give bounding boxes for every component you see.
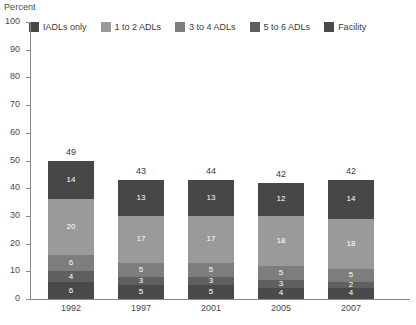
x-axis-category-label: 2005 — [258, 303, 304, 313]
bar-segment-value: 6 — [69, 287, 73, 295]
x-axis-labels: 19921997200120052007 — [30, 303, 410, 317]
bar-segment[interactable]: 20 — [48, 199, 94, 254]
bar-segment[interactable]: 5 — [118, 263, 164, 277]
bar-segment-value: 14 — [67, 176, 76, 184]
bar-segment-value: 5 — [139, 288, 143, 296]
bar-segment[interactable]: 14 — [328, 180, 374, 219]
bar-segment-value: 14 — [347, 195, 356, 203]
bars-layer: 6462014495351713435351713444351812424251… — [30, 22, 410, 300]
plot-area: 1009080706050403020100 64620144953517134… — [30, 22, 410, 300]
bar-segment[interactable]: 18 — [258, 216, 304, 266]
bar-stack: 425181442 — [328, 180, 374, 299]
y-axis-title: Percent — [4, 2, 36, 12]
bar-stack: 535171344 — [188, 180, 234, 299]
y-axis-tick-label: 10 — [0, 265, 20, 276]
bar-segment-value: 17 — [137, 235, 146, 243]
bar-segment[interactable]: 14 — [48, 161, 94, 200]
bar-segment[interactable]: 5 — [328, 269, 374, 283]
bar-segment-value: 4 — [349, 289, 353, 297]
x-axis-category-label: 1992 — [48, 303, 94, 313]
bar-segment-value: 4 — [279, 289, 283, 297]
y-axis-tick-label: 80 — [0, 71, 20, 82]
bar-segment[interactable]: 5 — [258, 266, 304, 280]
bar-segment[interactable]: 4 — [258, 288, 304, 299]
bar-segment[interactable]: 12 — [258, 183, 304, 216]
bar-segment[interactable]: 3 — [188, 277, 234, 285]
bar-segment-value: 5 — [139, 266, 143, 274]
bar-segment-value: 5 — [349, 271, 353, 279]
bar-total-label: 42 — [328, 166, 374, 176]
bar-segment-value: 3 — [139, 277, 143, 285]
bar-segment-value: 4 — [69, 273, 73, 281]
y-axis-tick-label: 30 — [0, 210, 20, 221]
bar-segment[interactable]: 5 — [118, 285, 164, 299]
y-axis-tick-label: 40 — [0, 182, 20, 193]
bar-segment[interactable]: 6 — [48, 255, 94, 272]
y-axis-tick-label: 0 — [0, 293, 20, 304]
bar-segment[interactable]: 17 — [188, 216, 234, 263]
bar-segment-value: 6 — [69, 259, 73, 267]
bar-segment-value: 13 — [207, 194, 216, 202]
bar-group[interactable]: 646201449 — [48, 161, 94, 299]
bar-segment[interactable]: 5 — [188, 285, 234, 299]
bar-segment[interactable]: 3 — [118, 277, 164, 285]
x-axis-category-label: 1997 — [118, 303, 164, 313]
bar-segment[interactable]: 3 — [258, 280, 304, 288]
bar-segment[interactable]: 17 — [118, 216, 164, 263]
bar-segment-value: 12 — [277, 195, 286, 203]
bar-segment[interactable]: 5 — [188, 263, 234, 277]
bar-segment[interactable]: 2 — [328, 282, 374, 288]
bar-group[interactable]: 435181242 — [258, 183, 304, 299]
x-axis-category-label: 2007 — [328, 303, 374, 313]
bar-segment-value: 5 — [279, 269, 283, 277]
y-axis-tick-label: 90 — [0, 44, 20, 55]
bar-segment[interactable]: 13 — [188, 180, 234, 216]
bar-stack: 646201449 — [48, 161, 94, 299]
bar-segment-value: 3 — [209, 277, 213, 285]
bar-segment[interactable]: 4 — [48, 271, 94, 282]
bar-segment-value: 13 — [137, 194, 146, 202]
bar-segment[interactable]: 6 — [48, 282, 94, 299]
bar-segment-value: 18 — [277, 237, 286, 245]
bar-segment-value: 5 — [209, 288, 213, 296]
bar-total-label: 43 — [118, 166, 164, 176]
y-axis-tick-label: 100 — [0, 16, 20, 27]
bar-segment[interactable]: 13 — [118, 180, 164, 216]
bar-segment-value: 3 — [279, 280, 283, 288]
x-axis-category-label: 2001 — [188, 303, 234, 313]
bar-segment[interactable]: 18 — [328, 219, 374, 269]
bar-stack: 535171343 — [118, 180, 164, 299]
bar-total-label: 44 — [188, 166, 234, 176]
stacked-bar-chart: Percent IADLs only1 to 2 ADLs3 to 4 ADLs… — [0, 0, 416, 325]
bar-stack: 435181242 — [258, 183, 304, 299]
bar-group[interactable]: 425181442 — [328, 180, 374, 299]
bar-total-label: 42 — [258, 169, 304, 179]
bar-segment-value: 17 — [207, 235, 216, 243]
y-axis-tick-label: 20 — [0, 238, 20, 249]
bar-group[interactable]: 535171343 — [118, 180, 164, 299]
bar-segment-value: 5 — [209, 266, 213, 274]
bar-segment[interactable]: 4 — [328, 288, 374, 299]
bar-segment-value: 18 — [347, 240, 356, 248]
y-axis-tick-label: 60 — [0, 127, 20, 138]
y-axis-tick-label: 70 — [0, 99, 20, 110]
bar-segment-value: 20 — [67, 223, 76, 231]
y-axis-tick-label: 50 — [0, 155, 20, 166]
bar-total-label: 49 — [48, 147, 94, 157]
bar-group[interactable]: 535171344 — [188, 180, 234, 299]
